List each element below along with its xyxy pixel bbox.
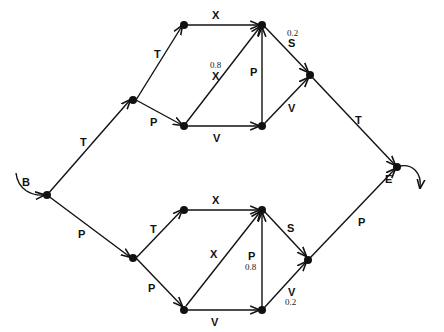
edge-l1-l2 [136,210,182,258]
edge-u3-u6 [264,26,308,72]
edge-label: P [78,228,85,240]
node-end [393,163,401,171]
edge-label: T [80,136,87,148]
edge-probability: 0.2 [287,28,298,38]
edge-label: X [210,248,218,260]
edge-l3-l6 [264,211,306,256]
edge-l1-l4 [136,258,182,306]
begin-arrow [16,173,44,195]
node [304,256,312,264]
node-begin [43,191,51,199]
edge-label: P [250,66,257,78]
edge-probability: 0.2 [285,297,296,307]
begin-label: B [22,176,30,188]
grammar-graph-diagram: B E T T P X X 0.8 V P S 0.2 V T P T P X … [0,0,444,332]
edge-u1-u2 [136,26,182,100]
edge-label: P [150,116,157,128]
edge-label: T [154,48,161,60]
node [180,306,188,314]
node [129,96,137,104]
node [258,21,266,29]
edge-label: T [150,223,157,235]
node [258,306,266,314]
node [180,122,188,130]
node [258,122,266,130]
edge-label: X [212,194,220,206]
node [306,71,314,79]
edge-label: S [287,222,294,234]
edge-b-l1 [47,195,130,257]
end-arrow [400,166,420,188]
edge-label: V [213,132,221,144]
edge-label: P [148,282,155,294]
node [129,254,137,262]
edge-label: V [211,316,219,328]
edge-label: P [358,216,365,228]
edge-u6-e [311,76,395,165]
edge-l6-e [309,169,395,259]
node [258,206,266,214]
edge-label: S [288,37,295,49]
edge-u4-u3 [186,27,260,123]
graph-nodes [43,21,401,314]
node [180,21,188,29]
edge-b-u1 [47,100,130,195]
edge-label: T [355,114,362,126]
edge-u1-u4 [136,100,182,125]
node [180,206,188,214]
edge-probability: 0.8 [210,60,222,70]
edge-label: P [248,250,255,262]
edge-label: V [288,102,296,114]
edge-label: X [212,70,220,82]
edge-label: X [212,9,220,21]
edge-probability: 0.8 [245,262,257,272]
edge-u5-u6 [264,78,308,124]
